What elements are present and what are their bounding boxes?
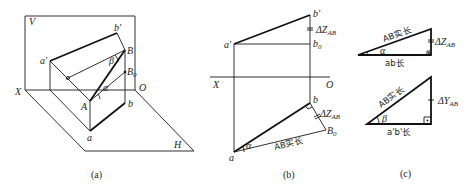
right-angle-marker-b [305, 106, 312, 109]
label-b: b [128, 98, 133, 109]
b-prime-B-line [117, 33, 125, 50]
a-prime-b-prime-edge [50, 33, 117, 61]
label-dz-top: ΔZAB [315, 24, 337, 37]
label-b-prime-b: b' [313, 8, 321, 19]
label-B0: B0 [127, 66, 137, 79]
label-X-b: X [212, 79, 220, 90]
label-b-b: b [313, 94, 318, 105]
B0-point [124, 71, 127, 74]
caption-a: (a) [91, 169, 102, 181]
label-alpha-b: α [246, 140, 252, 151]
label-a-b: a [229, 152, 234, 163]
label-base-top: ab长 [385, 58, 405, 68]
right-angle-dot [427, 120, 429, 122]
label-dz-bottom: ΔZAB [319, 108, 341, 121]
panel-a: V X O H a' b' B A a b B0 α β (a) [14, 16, 194, 181]
label-b-prime: b' [114, 22, 122, 33]
label-V: V [29, 16, 37, 27]
panel-c: AB实长 ΔZAB ab长 α AB实长 ΔYAB a'b'长 β (c) [358, 25, 459, 180]
label-alpha: α [103, 82, 109, 93]
a-prime-b-prime-edge-b [234, 15, 310, 44]
label-O-b: O [326, 79, 333, 90]
label-O: O [139, 82, 146, 93]
descriptive-geometry-figure: V X O H a' b' B A a b B0 α β (a) b' a' b… [0, 0, 470, 191]
label-dy-c: ΔYAB [437, 95, 459, 108]
label-X: X [14, 86, 22, 97]
label-B: B [127, 45, 133, 56]
label-A: A [80, 101, 88, 112]
label-B0-b: B0 [327, 125, 337, 138]
h-plane [25, 90, 194, 151]
label-dz-c: ΔZAB [434, 36, 456, 49]
caption-c: (c) [400, 168, 411, 180]
label-H: H [173, 139, 182, 150]
alpha-arc [98, 94, 100, 99]
label-beta: β [108, 55, 114, 66]
right-angle-dot [428, 52, 430, 54]
label-a: a [87, 132, 92, 143]
a-prime-A-line [50, 61, 90, 101]
label-base-bottom: a'b'长 [387, 127, 411, 137]
label-a-prime: a' [40, 55, 48, 66]
ab-edge [90, 103, 125, 131]
label-beta-c: β [381, 113, 387, 124]
label-b0-prime: b0 [313, 38, 322, 51]
label-a-prime-b: a' [224, 39, 232, 50]
beta-arc-c [377, 117, 379, 124]
AB-edge [90, 50, 125, 101]
caption-b: (b) [283, 169, 295, 181]
panel-b: b' a' b0 ΔZAB X O b ΔZAB B0 a α AB实长 (b) [210, 8, 341, 181]
label-alpha-c: α [380, 45, 386, 56]
label-true-length-b: AB实长 [273, 136, 304, 152]
beta-helper-line [66, 50, 125, 79]
